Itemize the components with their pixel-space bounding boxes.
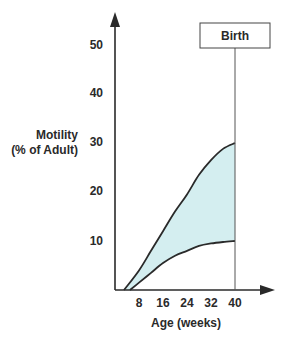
y-tick: 20 bbox=[90, 184, 104, 198]
x-tick: 40 bbox=[228, 296, 242, 310]
x-axis-title: Age (weeks) bbox=[151, 316, 221, 330]
y-tick: 30 bbox=[90, 135, 104, 149]
y-tick: 50 bbox=[90, 38, 104, 52]
y-axis-title-line1: Motility bbox=[36, 128, 78, 142]
x-tick: 32 bbox=[204, 296, 218, 310]
x-tick-labels: 8 16 24 32 40 bbox=[136, 296, 242, 310]
y-tick-labels: 10 20 30 40 50 bbox=[90, 38, 104, 248]
y-tick: 10 bbox=[90, 234, 104, 248]
chart: Birth 10 20 30 40 50 8 16 24 32 40 Age (… bbox=[0, 0, 297, 338]
y-axis-arrow-icon bbox=[110, 12, 120, 27]
x-axis-arrow-icon bbox=[260, 285, 275, 295]
x-tick: 24 bbox=[180, 296, 194, 310]
x-tick: 8 bbox=[136, 296, 143, 310]
y-tick: 40 bbox=[90, 86, 104, 100]
x-tick: 16 bbox=[156, 296, 170, 310]
y-axis-title-line2: (% of Adult) bbox=[11, 143, 78, 157]
birth-label: Birth bbox=[221, 29, 249, 43]
